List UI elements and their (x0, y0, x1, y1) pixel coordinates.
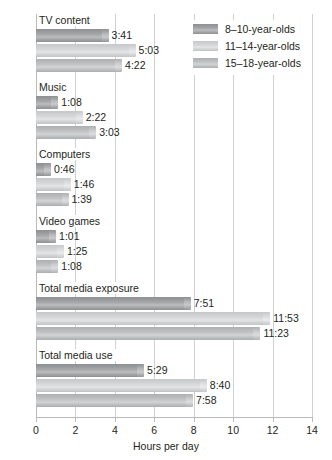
bar-value-label: 11:53 (270, 311, 299, 325)
legend-label: 8–10-year-olds (225, 23, 295, 35)
bar[interactable] (36, 297, 191, 310)
tick-label-14: 14 (306, 424, 318, 436)
legend-label: 15–18-year-olds (225, 57, 301, 69)
bar-value-label: 1:08 (58, 95, 81, 109)
x-axis-title: Hours per day (0, 440, 332, 452)
bar-row: 1:01 (36, 230, 312, 243)
tick-label-10: 10 (227, 424, 239, 436)
bar-row: 7:58 (36, 394, 312, 407)
bar[interactable] (36, 163, 51, 176)
bar-row: 8:40 (36, 379, 312, 392)
bar-group: Total media exposure7:5111:5311:23 (36, 282, 312, 340)
category-label: Total media use (38, 349, 116, 361)
bar[interactable] (36, 44, 136, 57)
legend-swatch-icon (193, 24, 218, 34)
bar-group: Total media use5:298:407:58 (36, 349, 312, 407)
bar-group: Music1:082:223:03 (36, 81, 312, 139)
bar-row: 1:39 (36, 193, 312, 206)
category-label: Computers (38, 148, 93, 160)
bar-row: 1:46 (36, 178, 312, 191)
bar-value-label: 4:22 (122, 58, 145, 72)
bar-row: 0:46 (36, 163, 312, 176)
bar-value-label: 11:23 (260, 326, 289, 340)
bar-value-label: 8:40 (207, 378, 230, 392)
bar-value-label: 1:01 (56, 229, 79, 243)
bar-value-label: 3:41 (109, 28, 132, 42)
bar-row: 11:23 (36, 327, 312, 340)
bar-value-label: 7:58 (193, 393, 216, 407)
bar-row: 1:08 (36, 260, 312, 273)
bar-value-label: 1:46 (71, 177, 94, 191)
legend-item[interactable]: 8–10-year-olds (193, 22, 301, 36)
bar-value-label: 3:03 (96, 125, 119, 139)
bar-value-label: 1:08 (58, 259, 81, 273)
tick-mark-14 (312, 417, 313, 422)
tick-mark-8 (194, 417, 195, 422)
bar[interactable] (36, 312, 270, 325)
bar[interactable] (36, 178, 71, 191)
tick-label-8: 8 (191, 424, 197, 436)
bar[interactable] (36, 364, 144, 377)
legend-swatch-icon (193, 58, 218, 68)
x-axis-line (36, 417, 313, 418)
bar[interactable] (36, 193, 69, 206)
tick-label-4: 4 (112, 424, 118, 436)
bar[interactable] (36, 96, 58, 109)
bar[interactable] (36, 260, 58, 273)
bar-group: Video games1:011:251:08 (36, 215, 312, 273)
category-label: Total media exposure (38, 282, 142, 294)
bar[interactable] (36, 327, 260, 340)
grouped-bar-chart: TV content3:415:034:22Music1:082:223:03C… (0, 0, 332, 460)
bar[interactable] (36, 230, 56, 243)
tick-mark-0 (36, 417, 37, 422)
tick-mark-6 (154, 417, 155, 422)
bar-group: Computers0:461:461:39 (36, 148, 312, 206)
bar-row: 3:03 (36, 126, 312, 139)
tick-label-0: 0 (33, 424, 39, 436)
bar-value-label: 2:22 (83, 110, 106, 124)
tick-label-2: 2 (73, 424, 79, 436)
bar[interactable] (36, 379, 207, 392)
tick-mark-12 (273, 417, 274, 422)
bar[interactable] (36, 245, 64, 258)
chart-legend: 8–10-year-olds11–14-year-olds15–18-year-… (193, 20, 303, 75)
tick-label-6: 6 (151, 424, 157, 436)
bar-row: 1:25 (36, 245, 312, 258)
tick-mark-10 (233, 417, 234, 422)
legend-swatch-icon (193, 41, 218, 51)
bar-value-label: 7:51 (191, 296, 214, 310)
legend-item[interactable]: 15–18-year-olds (193, 56, 301, 70)
category-label: Video games (38, 215, 103, 227)
category-label: Music (38, 81, 69, 93)
bar-row: 5:29 (36, 364, 312, 377)
bar-value-label: 5:03 (136, 43, 159, 57)
bar-row: 7:51 (36, 297, 312, 310)
bar-row: 11:53 (36, 312, 312, 325)
bar-value-label: 1:25 (64, 244, 87, 258)
bar-value-label: 0:46 (51, 162, 74, 176)
bar[interactable] (36, 126, 96, 139)
legend-item[interactable]: 11–14-year-olds (193, 39, 301, 53)
bar[interactable] (36, 59, 122, 72)
bar[interactable] (36, 394, 193, 407)
tick-label-12: 12 (267, 424, 279, 436)
tick-mark-4 (115, 417, 116, 422)
gridline-14 (312, 14, 313, 417)
bar-row: 2:22 (36, 111, 312, 124)
bar-value-label: 1:39 (69, 192, 92, 206)
legend-label: 11–14-year-olds (225, 40, 300, 52)
bar-value-label: 5:29 (144, 363, 167, 377)
bar[interactable] (36, 29, 109, 42)
tick-mark-2 (75, 417, 76, 422)
bar[interactable] (36, 111, 83, 124)
bar-row: 1:08 (36, 96, 312, 109)
category-label: TV content (38, 14, 93, 26)
